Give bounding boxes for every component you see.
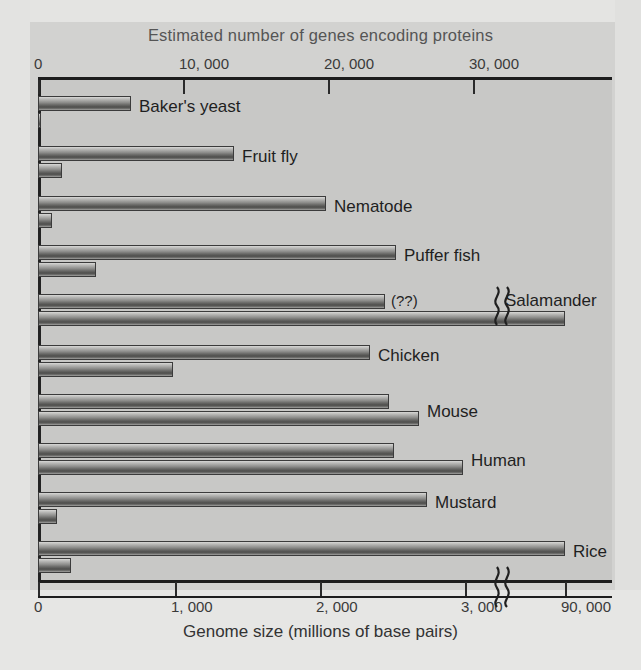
bar-genome [38,362,173,377]
bar-category-label: Nematode [334,197,412,217]
top-tick-label: 30, 000 [469,55,519,72]
bar-genome [38,411,419,426]
top-tick-mark [183,80,185,94]
bar-genome [38,558,71,573]
bar-category-label: Chicken [378,346,439,366]
bottom-tick-label: 1, 000 [171,598,213,615]
chart-page: Estimated number of genes encoding prote… [0,0,641,670]
bar-genome [38,509,57,524]
top-tick-label: 20, 000 [324,55,374,72]
bar-genome [38,113,41,128]
bar-category-label: Mouse [427,402,478,422]
bottom-tick-label: 0 [34,598,42,615]
bar-genome [38,163,62,178]
bar-genes [38,345,370,360]
bar-category-label: Mustard [435,493,496,513]
top-axis-line [38,77,612,80]
plot-bottom-line [38,580,612,583]
top-tick-mark [38,80,40,94]
bar-category-label: Fruit fly [242,147,298,167]
bottom-tick-mark [320,582,322,596]
bottom-tick-mark [38,582,40,596]
bar-genome [38,460,463,475]
bar-genes [38,245,396,260]
bottom-tick-mark [175,582,177,596]
top-tick-mark [328,80,330,94]
bottom-axis-title: Genome size (millions of base pairs) [0,622,641,642]
bar-genes [38,96,131,111]
bar-category-label: Baker's yeast [139,97,241,117]
page-margin-top [0,0,641,22]
bar-genome [38,262,96,277]
bottom-tick-mark [465,582,467,596]
bar-genes [38,294,385,309]
bar-genome [38,213,52,228]
bar-category-label: Human [471,451,526,471]
bar-genes [38,146,234,161]
bottom-tick-mark [565,582,567,596]
page-margin-left [0,0,30,670]
axis-break-icon [487,566,517,608]
bar-genes [38,492,427,507]
bar-category-label: Puffer fish [404,246,480,266]
top-axis-title: Estimated number of genes encoding prote… [0,26,641,45]
bar-genes [38,443,394,458]
bar-category-label: Salamander [505,291,597,311]
top-tick-label: 10, 000 [179,55,229,72]
bar-genome [38,311,565,326]
bar-annotation: (??) [391,292,418,309]
bar-genes [38,196,326,211]
top-tick-mark [473,80,475,94]
bottom-tick-label: 2, 000 [316,598,358,615]
salamander-bar-break-icon [487,286,517,326]
bottom-tick-label: 90, 000 [561,598,611,615]
bar-genes [38,541,565,556]
page-margin-right [615,0,641,670]
top-tick-label: 0 [34,55,42,72]
bar-category-label: Rice [573,542,607,562]
bar-genes [38,394,389,409]
